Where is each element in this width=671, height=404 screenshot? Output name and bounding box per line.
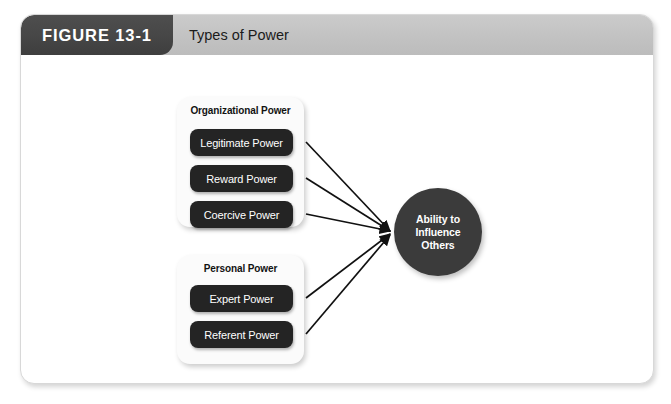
- group-heading-personal: Personal Power: [177, 263, 304, 274]
- group-panel-organizational: Organizational Power Legitimate Power Re…: [177, 97, 304, 227]
- figure-number-tab: FIGURE 13-1: [21, 15, 173, 55]
- figure-number-label: FIGURE 13-1: [42, 26, 152, 45]
- figure-header-bar: FIGURE 13-1 Types of Power: [21, 15, 654, 55]
- connector-expert: [306, 234, 390, 298]
- power-box-legitimate: Legitimate Power: [190, 129, 293, 156]
- power-box-coercive: Coercive Power: [190, 201, 293, 228]
- figure-title: Types of Power: [189, 15, 289, 55]
- power-box-expert: Expert Power: [190, 285, 293, 312]
- diagram-canvas: Organizational Power Legitimate Power Re…: [21, 55, 654, 384]
- outcome-circle: Ability to Influence Others: [394, 188, 482, 276]
- power-box-expert-label: Expert Power: [209, 293, 273, 305]
- outcome-circle-label: Ability to Influence Others: [415, 213, 460, 252]
- group-panel-personal: Personal Power Expert Power Referent Pow…: [177, 255, 304, 364]
- figure-card: FIGURE 13-1 Types of Power Organizationa…: [20, 14, 654, 384]
- group-heading-organizational: Organizational Power: [177, 105, 304, 116]
- power-box-reward-label: Reward Power: [206, 173, 276, 185]
- power-box-legitimate-label: Legitimate Power: [200, 137, 283, 149]
- power-box-referent-label: Referent Power: [204, 329, 278, 341]
- power-box-referent: Referent Power: [190, 321, 293, 348]
- power-box-reward: Reward Power: [190, 165, 293, 192]
- connector-referent: [306, 235, 390, 334]
- power-box-coercive-label: Coercive Power: [204, 209, 280, 221]
- connector-arrows: [21, 55, 654, 384]
